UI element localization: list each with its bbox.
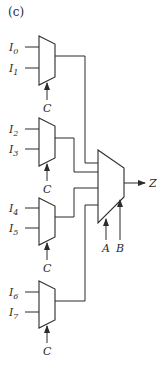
input-label-i3: I3 [8,143,18,158]
mux-2: I2 I3 C [8,118,55,196]
input-label-i6: I6 [8,286,18,301]
input-label-i5: I5 [8,222,18,237]
mux-2-body [39,118,55,166]
mux-4-body [39,281,55,328]
select-label-c: C [43,262,52,275]
figure-label: (c) [8,5,24,19]
input-label-i7: I7 [8,306,19,321]
main-mux: Z A B [98,150,157,255]
mux-1-body [39,36,55,85]
mux-3-body [39,198,55,245]
select-label-b: B [115,242,124,255]
output-label-z: Z [148,177,157,190]
select-label-c: C [43,102,52,115]
wire-mux4-to-main [55,205,98,301]
mux-4: I6 I7 C [8,281,55,358]
mux-3: I4 I5 C [8,198,55,275]
select-label-c: C [43,345,52,358]
mux-tree-diagram: (c) I0 I1 C I2 I3 C I4 I5 C I6 I7 C [0,0,164,368]
select-label-c: C [43,183,52,196]
wire-mux1-to-main [55,56,98,163]
input-label-i4: I4 [8,202,18,217]
input-label-i0: I0 [8,41,18,56]
select-label-a: A [101,242,110,255]
wire-mux2-to-main [55,138,98,172]
mux-1: I0 I1 C [8,36,55,115]
input-label-i1: I1 [8,62,18,77]
input-label-i2: I2 [8,123,18,138]
wire-mux3-to-main [55,188,98,217]
